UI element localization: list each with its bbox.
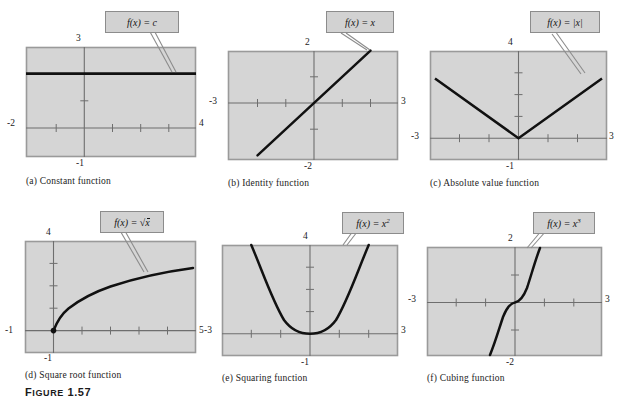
callout-d-lhs: f(x) (114, 217, 128, 228)
axis-label-c-ybottom: -1 (506, 161, 514, 171)
callout-d-eq: = (131, 217, 137, 228)
axis-label-e-ybottom: -1 (301, 357, 309, 367)
callout-c-formula: f(x)=|x| (530, 11, 600, 33)
callout-c-eq: = (564, 17, 570, 28)
callout-f-formula: f(x)=x3 (533, 212, 595, 234)
caption-panel-f: (f) Cubing function (427, 373, 505, 383)
axis-label-c-ytop: 4 (508, 37, 513, 47)
callout-a-rhs: c (153, 17, 157, 28)
caption-panel-c: (c) Absolute value function (430, 178, 539, 188)
axis-label-a-ytop: 3 (76, 33, 81, 43)
axis-label-a-ybottom: -1 (76, 158, 84, 168)
callout-e-eq: = (373, 218, 379, 229)
axis-label-b-ytop: 2 (305, 37, 310, 47)
callout-b-rhs: x (371, 17, 375, 28)
figure-1-57: -2 4 3 -1 (a) Constant function f(x)=c (0, 0, 621, 405)
axis-label-d-ytop: 4 (46, 227, 51, 237)
callout-b-formula: f(x)=x (326, 11, 394, 33)
callout-a-eq: = (144, 17, 150, 28)
callout-d-formula: f(x)=√x (100, 211, 164, 233)
axis-label-e-xleft: -3 (204, 325, 212, 335)
axis-label-f-ytop: 2 (508, 233, 513, 243)
callout-e-rhs: x2 (382, 217, 390, 229)
callout-f-rhs: x3 (573, 217, 581, 229)
axis-label-b-ybottom: -2 (304, 161, 312, 171)
callout-b-eq: = (362, 17, 368, 28)
axis-label-f-xleft: -3 (408, 294, 416, 304)
axis-label-b-xright: 3 (401, 96, 406, 106)
callout-f-exponent: 3 (577, 217, 581, 225)
axis-label-f-xright: 3 (605, 294, 610, 304)
axis-label-c-xleft: -3 (411, 131, 419, 141)
axis-label-d-ybottom: -1 (44, 353, 52, 363)
axis-label-d-xleft: -1 (5, 325, 13, 335)
callout-c-lhs: f(x) (547, 17, 561, 28)
callout-e-exponent: 2 (386, 217, 390, 225)
callout-e-lhs: f(x) (356, 218, 370, 229)
figure-number-label: FIGURE 1.57 (25, 386, 91, 398)
callout-e-formula: f(x)=x2 (342, 212, 404, 234)
callout-c-rhs: |x| (573, 17, 583, 28)
callout-a-formula: f(x)=c (105, 11, 179, 33)
callout-f-lhs: f(x) (547, 218, 561, 229)
axis-label-e-xright: 3 (401, 325, 406, 335)
callout-b-lhs: f(x) (345, 17, 359, 28)
axis-label-f-ybottom: -2 (506, 357, 514, 367)
caption-panel-d: (d) Square root function (25, 370, 121, 380)
axis-label-e-ytop: 4 (303, 231, 308, 241)
axis-label-b-xleft: -3 (209, 96, 217, 106)
caption-panel-b: (b) Identity function (228, 178, 309, 188)
axis-label-a-xright: 4 (199, 118, 204, 128)
axis-label-c-xright: 3 (609, 131, 614, 141)
caption-panel-e: (e) Squaring function (222, 373, 307, 383)
figure-number-value: 1.57 (68, 386, 92, 398)
callout-a-lhs: f(x) (127, 17, 141, 28)
callout-f-eq: = (564, 218, 570, 229)
callout-d-rhs: √x (140, 217, 150, 228)
axis-label-a-xleft: -2 (7, 118, 15, 128)
caption-panel-a: (a) Constant function (26, 176, 111, 186)
figure-number-rest: IGURE (32, 388, 64, 398)
